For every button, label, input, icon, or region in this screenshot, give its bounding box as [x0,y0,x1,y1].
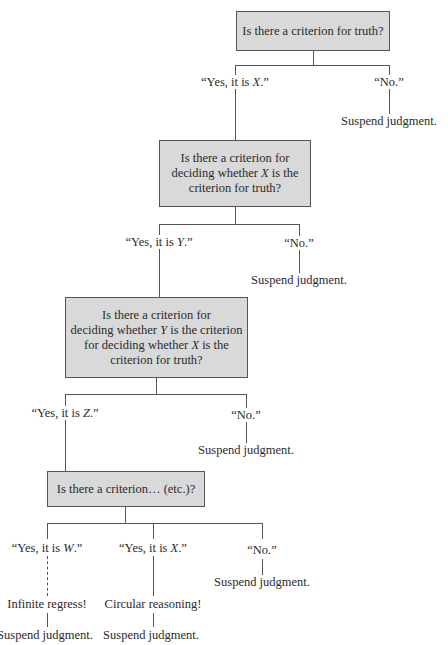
answer-text: “Yes, it is [201,75,253,89]
question-node-1: Is there a criterion for truth? [236,11,390,51]
connector [153,556,154,596]
connector [65,394,246,395]
question-3-line: for deciding whether X is the [71,338,243,353]
question-1-text: Is there a criterion for truth? [242,24,383,39]
text: deciding whether [171,166,261,180]
connector [235,207,236,224]
text: for deciding whether [84,338,191,352]
connector [153,613,154,627]
answer-text: .” [178,541,187,555]
outcome-suspend-4: Suspend judgment. [213,575,311,589]
answer-yes-y: “Yes, it is Y.” [124,235,193,249]
connector [389,65,390,115]
result-circular-reasoning: Circular reasoning! [104,597,203,611]
connector [153,523,154,539]
connector [262,523,263,539]
dashed-connector [47,556,48,596]
answer-text: “Yes, it is [31,406,83,420]
answer-no-1: “No.” [373,75,405,89]
question-node-2: Is there a criterion for deciding whethe… [159,140,311,207]
answer-yes-z: “Yes, it is Z.” [30,406,99,420]
question-2-line: criterion for truth? [171,181,298,196]
answer-yes-x-1: “Yes, it is X.” [200,75,270,89]
text: is the [199,338,229,352]
answer-text: “Yes, it is [12,541,64,555]
question-3-line: Is there a criterion for [71,308,243,323]
answer-no-2: “No.” [283,236,315,250]
answer-text: .” [90,406,99,420]
connector [47,523,48,539]
outcome-suspend-3: Suspend judgment. [197,443,295,457]
outcome-suspend-w: Suspend judgment. [0,628,94,642]
answer-text: .” [260,75,269,89]
variable: X [191,338,199,352]
question-3-line: deciding whether Y is the criterion [71,323,243,338]
connector [47,523,262,524]
answer-text: .” [184,235,193,249]
answer-no-4: “No.” [246,543,278,557]
connector [262,559,263,575]
question-node-3: Is there a criterion for deciding whethe… [65,297,248,378]
answer-yes-x-2: “Yes, it is X.” [118,541,188,555]
answer-variable: W [63,541,73,555]
connector [125,507,126,523]
answer-text: “Yes, it is [119,541,171,555]
result-infinite-regress: Infinite regress! [6,597,87,611]
text: is the criterion [167,323,242,337]
connector [159,224,299,225]
answer-text: “Yes, it is [125,235,177,249]
connector [47,613,48,627]
question-3-line: criterion for truth? [71,353,243,368]
connector [156,378,157,394]
question-2-line: Is there a criterion for [171,151,298,166]
outcome-suspend-x: Suspend judgment. [102,628,200,642]
text: is the [269,166,299,180]
outcome-suspend-1: Suspend judgment. [340,114,438,128]
variable: X [261,166,269,180]
question-2-line: deciding whether X is the [171,166,298,181]
text: deciding whether [71,323,161,337]
question-node-4: Is there a criterion… (etc.)? [47,471,205,507]
answer-no-3: “No.” [230,408,262,422]
answer-text: .” [74,541,83,555]
outcome-suspend-2: Suspend judgment. [250,273,348,287]
question-4-text: Is there a criterion… (etc.)? [57,482,195,497]
connector [313,50,314,65]
answer-yes-w: “Yes, it is W.” [11,541,84,555]
connector [235,65,389,66]
